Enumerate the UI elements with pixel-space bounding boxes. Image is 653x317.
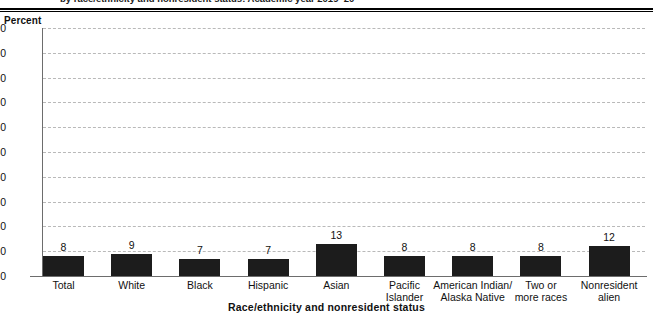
x-axis-title: Race/ethnicity and nonresident status bbox=[0, 301, 653, 313]
gridline-20 bbox=[43, 226, 645, 227]
y-tick-label-80: 80 bbox=[0, 73, 6, 83]
y-tick-label-30: 30 bbox=[0, 197, 6, 207]
bar-value-label: 8 bbox=[375, 242, 435, 253]
x-tick-label: Nonresidentalien bbox=[563, 280, 653, 303]
y-axis-title: Percent bbox=[4, 15, 41, 26]
y-tick-label-40: 40 bbox=[0, 172, 6, 182]
bar-value-label: 7 bbox=[238, 245, 298, 256]
gridline-100 bbox=[43, 28, 645, 29]
bar bbox=[452, 256, 493, 276]
gridline-40 bbox=[43, 177, 645, 178]
bar bbox=[43, 256, 84, 276]
bar-value-label: 12 bbox=[579, 232, 639, 243]
y-axis-line bbox=[42, 28, 43, 277]
gridline-60 bbox=[43, 127, 645, 128]
y-tick-label-50: 50 bbox=[0, 147, 6, 157]
bar bbox=[111, 254, 152, 276]
bar-value-label: 8 bbox=[34, 242, 94, 253]
bar bbox=[384, 256, 425, 276]
gridline-90 bbox=[43, 53, 645, 54]
figure-title-cutoff: by race/ethnicity and nonresident status… bbox=[60, 0, 354, 4]
bar bbox=[520, 256, 561, 276]
y-tick-label-70: 70 bbox=[0, 97, 6, 107]
bar-value-label: 8 bbox=[511, 242, 571, 253]
y-tick-label-0: 0 bbox=[0, 271, 6, 281]
bar bbox=[179, 259, 220, 276]
gridline-70 bbox=[43, 102, 645, 103]
y-tick-label-10: 10 bbox=[0, 246, 6, 256]
y-tick-label-90: 90 bbox=[0, 48, 6, 58]
header-rule-thin bbox=[0, 11, 653, 12]
y-tick-label-20: 20 bbox=[0, 221, 6, 231]
header-rule-thick bbox=[0, 8, 653, 10]
x-axis-line bbox=[30, 276, 647, 277]
gridline-80 bbox=[43, 78, 645, 79]
bar bbox=[316, 244, 357, 276]
y-tick-label-60: 60 bbox=[0, 122, 6, 132]
bar-value-label: 13 bbox=[306, 230, 366, 241]
gridline-50 bbox=[43, 152, 645, 153]
bar bbox=[248, 259, 289, 276]
figure-title-strip: by race/ethnicity and nonresident status… bbox=[0, 0, 653, 12]
gridline-30 bbox=[43, 202, 645, 203]
bar-value-label: 8 bbox=[443, 242, 503, 253]
bar-value-label: 7 bbox=[170, 245, 230, 256]
y-tick-label-100: 100 bbox=[0, 23, 6, 33]
bar bbox=[589, 246, 630, 276]
bar-value-label: 9 bbox=[102, 240, 162, 251]
